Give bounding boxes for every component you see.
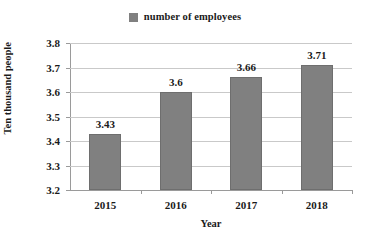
x-axis-tick-label: 2015: [70, 200, 140, 211]
y-axis-tick-label: 3.3: [0, 160, 60, 171]
legend-item-label: number of employees: [144, 12, 241, 23]
y-axis-tick-label: 3.6: [0, 87, 60, 98]
bar[interactable]: [230, 77, 262, 190]
gridline: [70, 43, 352, 44]
x-axis-tick-label: 2018: [282, 200, 352, 211]
y-axis-tick: [66, 92, 70, 93]
y-axis-tick: [66, 141, 70, 142]
x-axis-tick: [211, 190, 212, 194]
x-axis-tick: [141, 190, 142, 194]
bar-value-label: 3.6: [146, 77, 206, 88]
y-axis-tick-label: 3.2: [0, 185, 60, 196]
bar-value-label: 3.66: [216, 62, 276, 73]
y-axis-tick: [66, 68, 70, 69]
y-axis-tick-label: 3.8: [0, 38, 60, 49]
x-axis-tick-label: 2016: [141, 200, 211, 211]
x-axis-tick: [282, 190, 283, 194]
y-axis-tick: [66, 166, 70, 167]
y-axis-tick-label: 3.5: [0, 111, 60, 122]
bar-value-label: 3.71: [287, 50, 347, 61]
square-swatch-icon: [129, 13, 138, 22]
bar[interactable]: [160, 92, 192, 190]
chart-legend: number of employees: [0, 12, 370, 23]
y-axis-tick-label: 3.4: [0, 136, 60, 147]
y-axis-tick: [66, 190, 70, 191]
y-axis-tick: [66, 117, 70, 118]
plot-area: 3.433.63.663.71 2015201620172018: [70, 43, 352, 190]
x-axis-tick: [352, 190, 353, 194]
x-axis-tick-label: 2017: [211, 200, 281, 211]
y-axis-tick-label: 3.7: [0, 62, 60, 73]
bar-value-label: 3.43: [75, 119, 135, 130]
x-axis-title: Year: [70, 219, 352, 230]
bar[interactable]: [301, 65, 333, 190]
bar[interactable]: [89, 134, 121, 190]
y-axis-tick: [66, 43, 70, 44]
